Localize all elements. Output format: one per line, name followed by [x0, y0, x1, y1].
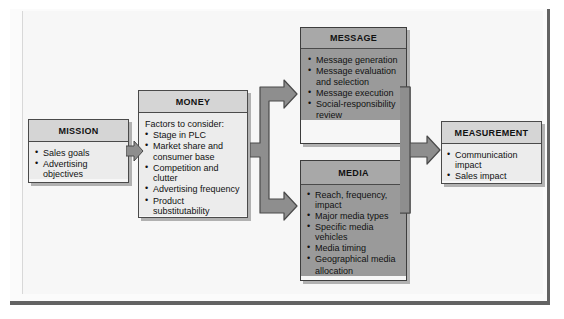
box-media-body: Reach, frequency, impact Major media typ…: [301, 185, 406, 276]
box-money-body: Factors to consider: Stage in PLC Market…: [139, 113, 247, 216]
list-item: Product substitutability: [145, 196, 243, 216]
list-item: Advertising frequency: [145, 184, 243, 194]
list-item: Message generation: [308, 55, 402, 65]
box-message-body: Message generation Message evaluation an…: [301, 49, 406, 120]
list-item-continuation: allocation: [307, 266, 403, 276]
list-item: Media timing: [307, 243, 403, 253]
list-item-continuation: review: [308, 110, 402, 120]
box-media-list: Reach, frequency, impact Major media typ…: [307, 190, 403, 276]
box-measurement-list: Communication impact Sales impact: [447, 150, 538, 181]
arrow-money-fork-icon: [250, 65, 306, 235]
box-measurement-title: MEASUREMENT: [442, 122, 541, 144]
arrow-mission-to-money-icon: [126, 140, 144, 162]
box-message-title: MESSAGE: [301, 28, 406, 49]
box-measurement: MEASUREMENT Communication impact Sales i…: [441, 121, 542, 184]
list-item: Sales goals: [35, 148, 123, 158]
arrow-merge-to-measurement-icon: [400, 65, 448, 235]
box-mission-list: Sales goals Advertising objectives: [35, 148, 123, 179]
box-media-title: MEDIA: [301, 161, 406, 185]
list-item: Sales impact: [447, 171, 538, 181]
list-item: Geographical media: [307, 254, 403, 264]
box-message: MESSAGE Message generation Message evalu…: [300, 27, 407, 144]
box-money: MONEY Factors to consider: Stage in PLC …: [138, 90, 248, 218]
list-item: Market share and: [145, 141, 243, 151]
list-item: Message execution: [308, 88, 402, 98]
list-item: Specific media vehicles: [307, 222, 403, 242]
box-money-list: Stage in PLC Market share and consumer b…: [145, 130, 243, 216]
box-message-list: Message generation Message evaluation an…: [308, 55, 402, 120]
list-item: Competition and clutter: [145, 163, 243, 183]
list-item: Reach, frequency, impact: [307, 190, 403, 210]
box-mission-title: MISSION: [29, 120, 128, 142]
box-mission-body: Sales goals Advertising objectives: [29, 142, 128, 179]
box-money-lead: Factors to consider:: [145, 119, 243, 129]
list-item: Advertising objectives: [35, 159, 123, 179]
box-measurement-body: Communication impact Sales impact: [442, 144, 541, 181]
box-mission: MISSION Sales goals Advertising objectiv…: [28, 119, 129, 183]
list-item: Message evaluation: [308, 66, 402, 76]
list-item-continuation: and selection: [308, 77, 402, 87]
list-item: Stage in PLC: [145, 130, 243, 140]
list-item: Social-responsibility: [308, 99, 402, 109]
list-item-continuation: consumer base: [145, 152, 243, 162]
box-media: MEDIA Reach, frequency, impact Major med…: [300, 160, 407, 281]
list-item: Communication impact: [447, 150, 538, 170]
box-money-title: MONEY: [139, 91, 247, 113]
list-item: Major media types: [307, 211, 403, 221]
diagram-canvas: MISSION Sales goals Advertising objectiv…: [0, 0, 564, 319]
